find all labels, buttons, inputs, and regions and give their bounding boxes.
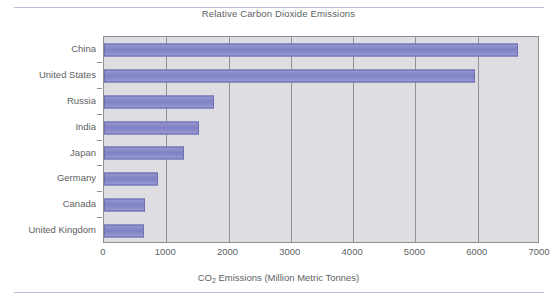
plot-area (103, 36, 539, 243)
bar-row (104, 37, 538, 63)
bar-canada (104, 199, 145, 212)
bar-united-kingdom (104, 225, 144, 238)
x-axis-title-prefix: CO (198, 272, 212, 283)
bar-japan (104, 147, 184, 160)
bottom-divider-rule (14, 292, 544, 293)
y-axis-tick (97, 191, 102, 192)
y-axis-label-germany: Germany (0, 165, 96, 191)
y-axis-tick (97, 140, 102, 141)
y-axis-category-labels: ChinaUnited StatesRussiaIndiaJapanGerman… (0, 36, 96, 243)
y-axis-label-india: India (0, 114, 96, 140)
x-axis-title-subscript: 2 (212, 277, 216, 284)
bar-india (104, 121, 199, 134)
y-axis-label-china: China (0, 36, 96, 62)
x-axis-tick-label: 7000 (528, 246, 549, 257)
y-axis-label-russia: Russia (0, 88, 96, 114)
y-axis-label-canada: Canada (0, 191, 96, 217)
bar-series (104, 37, 538, 242)
x-axis-title-suffix: Emissions (Million Metric Tonnes) (216, 272, 359, 283)
bar-row (104, 115, 538, 141)
y-axis-tick (97, 165, 102, 166)
y-axis-label-united-states: United States (0, 62, 96, 88)
bar-russia (104, 95, 214, 108)
bar-row (104, 218, 538, 244)
chart-page: Relative Carbon Dioxide Emissions ChinaU… (0, 0, 557, 300)
y-axis-tick (97, 88, 102, 89)
bar-china (104, 43, 518, 56)
x-axis-title: CO2 Emissions (Million Metric Tonnes) (0, 272, 557, 283)
y-axis-tick (97, 217, 102, 218)
bar-row (104, 141, 538, 167)
bar-row (104, 63, 538, 89)
y-axis-tick (97, 62, 102, 63)
x-axis-tick-label: 0 (100, 246, 105, 257)
y-axis-label-japan: Japan (0, 140, 96, 166)
bar-row (104, 192, 538, 218)
bar-germany (104, 173, 158, 186)
x-axis-tick-labels: 01000200030004000500060007000 (0, 246, 557, 260)
x-axis-tick-label: 3000 (279, 246, 300, 257)
bar-row (104, 89, 538, 115)
bar-row (104, 166, 538, 192)
x-axis-tick-label: 1000 (155, 246, 176, 257)
x-axis-tick-label: 5000 (404, 246, 425, 257)
y-axis-tick (97, 114, 102, 115)
x-axis-tick-label: 2000 (217, 246, 238, 257)
x-axis-tick-label: 4000 (342, 246, 363, 257)
chart-title: Relative Carbon Dioxide Emissions (0, 8, 557, 19)
bar-united-states (104, 69, 475, 82)
x-axis-tick-label: 6000 (466, 246, 487, 257)
y-axis-label-united-kingdom: United Kingdom (0, 217, 96, 243)
